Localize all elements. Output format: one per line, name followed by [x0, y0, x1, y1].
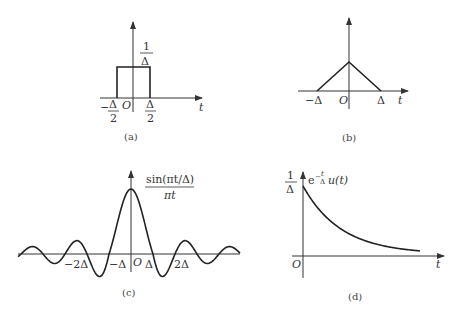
axis-label-t: t	[398, 94, 403, 107]
func-num: sin(πt/Δ)	[146, 173, 194, 186]
right-num: Δ	[146, 98, 154, 111]
caption-a: (a)	[124, 131, 138, 142]
origin: O	[292, 258, 301, 271]
height-den: Δ	[286, 183, 294, 196]
caption-d: (d)	[348, 291, 362, 302]
tick-neg1: −Δ	[109, 258, 126, 271]
panel-c: sin(πt/Δ) πt −2Δ −Δ O Δ 2Δ (c)	[18, 171, 240, 298]
height-den: Δ	[141, 55, 149, 68]
panel-b: −Δ O Δ t (b)	[298, 18, 408, 143]
func-suffix: u(t)	[328, 174, 348, 187]
func-exp-num: t	[321, 170, 324, 178]
left-den: 2	[110, 112, 117, 125]
left-label: −Δ	[305, 94, 322, 107]
origin: O	[133, 256, 142, 269]
origin: O	[122, 99, 131, 112]
left-num: Δ	[109, 98, 117, 111]
origin: O	[339, 94, 348, 107]
tick-neg2: −2Δ	[64, 258, 88, 271]
height-num: 1	[287, 169, 294, 182]
func-exp-den: Δ	[320, 178, 325, 186]
caption-c: (c)	[122, 287, 136, 298]
panel-d: 1 Δ e − t Δ u(t) O t (d)	[285, 169, 444, 302]
right-den: 2	[147, 112, 154, 125]
axis-label-t: t	[199, 101, 204, 114]
tick-pos1: Δ	[145, 258, 153, 271]
right-label: Δ	[377, 94, 385, 107]
caption-b: (b)	[342, 132, 356, 143]
exp-decay-curve	[303, 186, 420, 251]
panel-a: 1 Δ − Δ 2 O Δ 2 t (a)	[100, 22, 204, 142]
tick-pos2: 2Δ	[174, 258, 189, 271]
left-sign: −	[100, 101, 109, 114]
func-prefix: e	[308, 174, 315, 187]
height-num: 1	[143, 40, 150, 53]
sinc-curve	[18, 189, 240, 277]
signal-figure: 1 Δ − Δ 2 O Δ 2 t (a) −Δ O Δ t (b) sin(π…	[0, 0, 457, 310]
func-den: πt	[163, 189, 176, 202]
axis-label-t: t	[436, 258, 441, 271]
